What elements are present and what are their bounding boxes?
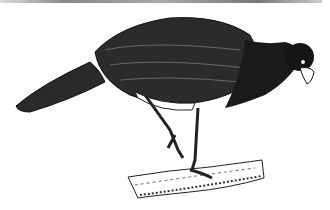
eye	[301, 60, 306, 65]
branch	[128, 160, 264, 198]
bird-illustration	[0, 0, 330, 210]
head	[286, 43, 314, 71]
tail	[16, 62, 105, 112]
beak	[300, 68, 314, 85]
